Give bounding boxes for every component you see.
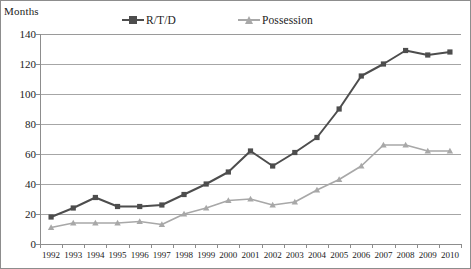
data-point — [93, 195, 98, 200]
x-tick-mark-1995 — [106, 244, 107, 248]
x-tick-mark-2005 — [328, 244, 329, 248]
x-tick-mark-2006 — [350, 244, 351, 248]
x-tick-label-2000: 2000 — [219, 250, 237, 260]
x-tick-mark-2010 — [439, 244, 440, 248]
x-tick-mark-1992 — [40, 244, 41, 248]
series-line — [51, 145, 450, 228]
y-tick-mark-60 — [36, 154, 40, 155]
x-tick-mark-1993 — [62, 244, 63, 248]
x-tick-label-2009: 2009 — [419, 250, 437, 260]
x-tick-mark-1997 — [151, 244, 152, 248]
y-tick-mark-80 — [36, 124, 40, 125]
x-tick-mark-2009 — [417, 244, 418, 248]
y-tick-mark-20 — [36, 214, 40, 215]
x-tick-label-1995: 1995 — [109, 250, 127, 260]
x-tick-label-2002: 2002 — [264, 250, 282, 260]
data-point — [270, 163, 275, 168]
x-tick-mark-1999 — [195, 244, 196, 248]
x-tick-label-1999: 1999 — [197, 250, 215, 260]
x-tick-label-1997: 1997 — [153, 250, 171, 260]
data-point — [359, 73, 364, 78]
y-tick-mark-100 — [36, 94, 40, 95]
data-point — [292, 150, 297, 155]
series-r-t-d — [48, 48, 452, 220]
x-tick-mark-1998 — [173, 244, 174, 248]
x-tick-label-2005: 2005 — [330, 250, 348, 260]
x-tick-label-2004: 2004 — [308, 250, 326, 260]
x-tick-label-2010: 2010 — [441, 250, 459, 260]
x-tick-mark-2001 — [239, 244, 240, 248]
x-tick-mark-1996 — [129, 244, 130, 248]
series-possession — [48, 142, 453, 230]
data-point — [381, 61, 386, 66]
x-tick-label-1996: 1996 — [131, 250, 149, 260]
x-tick-mark-1994 — [84, 244, 85, 248]
y-tick-mark-40 — [36, 184, 40, 185]
x-tick-mark-2008 — [395, 244, 396, 248]
y-tick-mark-120 — [36, 64, 40, 65]
data-point — [337, 106, 342, 111]
data-point — [248, 148, 253, 153]
data-point — [314, 135, 319, 140]
x-tick-label-2006: 2006 — [352, 250, 370, 260]
data-point — [115, 204, 120, 209]
data-point — [137, 204, 142, 209]
x-tick-mark-2000 — [217, 244, 218, 248]
x-tick-label-2007: 2007 — [374, 250, 392, 260]
data-point — [204, 181, 209, 186]
y-tick-mark-140 — [36, 34, 40, 35]
x-tick-mark-2004 — [306, 244, 307, 248]
x-tick-label-1992: 1992 — [42, 250, 60, 260]
data-point — [226, 169, 231, 174]
x-tick-label-2001: 2001 — [242, 250, 260, 260]
x-tick-label-2003: 2003 — [286, 250, 304, 260]
chart-figure: Months R/T/D Possession 0204060801001201… — [0, 0, 471, 269]
x-tick-mark-2002 — [262, 244, 263, 248]
data-point — [403, 48, 408, 53]
data-point — [71, 205, 76, 210]
data-point — [425, 52, 430, 57]
x-tick-mark-end — [461, 244, 462, 248]
x-tick-mark-2003 — [284, 244, 285, 248]
series-line — [51, 51, 450, 218]
data-point — [447, 49, 452, 54]
data-point — [48, 214, 53, 219]
x-tick-label-1994: 1994 — [86, 250, 104, 260]
chart-series-layer — [0, 0, 471, 269]
x-tick-label-1998: 1998 — [175, 250, 193, 260]
data-point — [181, 192, 186, 197]
x-tick-label-2008: 2008 — [397, 250, 415, 260]
x-tick-mark-2007 — [372, 244, 373, 248]
data-point — [159, 202, 164, 207]
x-tick-label-1993: 1993 — [64, 250, 82, 260]
